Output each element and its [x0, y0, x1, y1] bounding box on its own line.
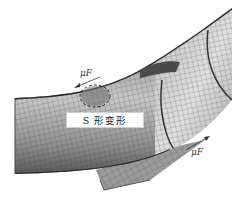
tube-mesh-diagram	[0, 0, 251, 207]
deformation-region	[81, 86, 109, 106]
s-deformation-label: S 形变形	[66, 112, 144, 128]
friction-force-label-top: μF	[80, 68, 92, 78]
s-deformation-label-text: S 形变形	[83, 113, 128, 127]
figure-canvas: μF μF S 形变形	[0, 0, 251, 207]
friction-force-label-bottom: μF	[191, 147, 203, 157]
